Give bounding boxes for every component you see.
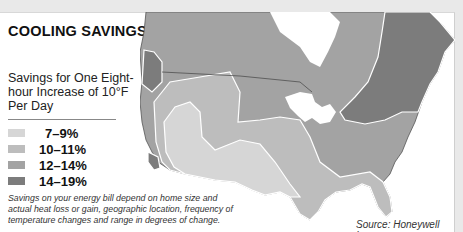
- north-america-map: [140, 12, 463, 232]
- legend-label: 14–19%: [39, 174, 119, 189]
- divider: [8, 119, 116, 120]
- legend-subtitle: Savings for One Eight-hour Increase of 1…: [8, 71, 138, 113]
- legend-item: 12–14%: [8, 157, 125, 173]
- legend-swatch: [8, 145, 25, 153]
- legend-label: 7–9%: [39, 126, 125, 141]
- legend-item: 7–9%: [8, 125, 125, 141]
- legend-label: 10–11%: [39, 142, 119, 157]
- legend-swatch: [8, 129, 25, 137]
- legend-item: 14–19%: [8, 173, 125, 189]
- legend-item: 10–11%: [8, 141, 125, 157]
- legend: 7–9% 10–11% 12–14% 14–19%: [8, 125, 125, 189]
- chart-title: COOLING SAVINGS: [8, 23, 147, 39]
- legend-swatch: [8, 177, 25, 185]
- legend-swatch: [8, 161, 25, 169]
- legend-label: 12–14%: [39, 158, 119, 173]
